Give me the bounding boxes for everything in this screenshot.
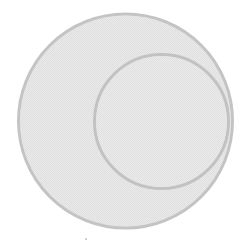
subset-diagram bbox=[0, 0, 249, 243]
inner-set-texture bbox=[96, 56, 227, 187]
diagram-canvas bbox=[0, 0, 249, 243]
speck-mark bbox=[85, 238, 87, 240]
